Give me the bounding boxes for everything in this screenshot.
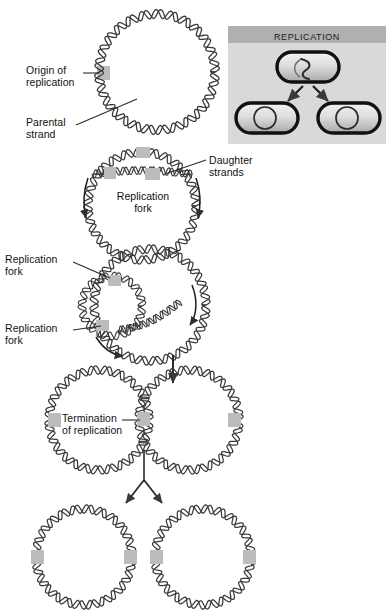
label-replication-fork-stage2: Replication fork <box>100 190 186 214</box>
inset-parent-cell <box>277 52 339 82</box>
origin-marker-stage5-right-b <box>243 550 256 564</box>
fork-marker-stage2-right <box>145 168 160 180</box>
inset-daughter-cell-left <box>236 103 298 133</box>
stage-1-parental-chromosome <box>76 10 219 135</box>
stage4-to-stage5-arrow-left <box>126 480 144 503</box>
label-origin-of-replication: Origin of replication <box>26 64 74 88</box>
replication-inset-panel <box>228 26 386 144</box>
fork-marker-stage3-upper <box>108 275 121 286</box>
label-termination-of-replication: Termination of replication <box>62 412 122 436</box>
stage-3-theta-structure <box>73 245 210 383</box>
label-replication-fork-lower: Replication fork <box>5 322 58 346</box>
fork-marker-stage3-lower <box>96 320 109 331</box>
stage4-to-stage5-arrow-right <box>144 480 162 503</box>
inset-daughter-cell-right <box>318 103 380 133</box>
stage1-dna-circle <box>95 10 220 135</box>
inset-header-label: REPLICATION <box>232 32 382 42</box>
origin-marker-stage4-right <box>228 413 241 427</box>
stage5-right-chromosome <box>151 505 255 609</box>
stage5-left-chromosome <box>32 505 136 609</box>
stage3-inner-loop <box>78 272 182 340</box>
fork-marker-stage2-left <box>104 167 116 179</box>
fork-direction-arrow-right <box>196 178 200 218</box>
stage4-right-chromosome <box>135 366 243 474</box>
leader-replication-fork-upper <box>73 262 110 278</box>
label-parental-strand: Parental strand <box>26 116 66 140</box>
fork-direction-arrow-stage3-right <box>190 285 196 325</box>
label-replication-fork-upper: Replication fork <box>5 253 58 277</box>
origin-marker-stage5-left-b <box>124 550 137 564</box>
label-daughter-strands: Daughter strands <box>209 154 253 178</box>
origin-marker-stage4-left <box>48 413 61 427</box>
termination-marker-stage4 <box>137 412 150 426</box>
origin-marker-stage5-left-a <box>31 550 44 564</box>
dna-replication-figure <box>0 0 389 610</box>
stage-5-daughter-chromosomes <box>31 505 256 609</box>
fork-direction-arrow-left <box>84 178 88 218</box>
origin-marker-stage5-right-a <box>150 550 163 564</box>
origin-marker-stage2-top <box>136 147 150 158</box>
